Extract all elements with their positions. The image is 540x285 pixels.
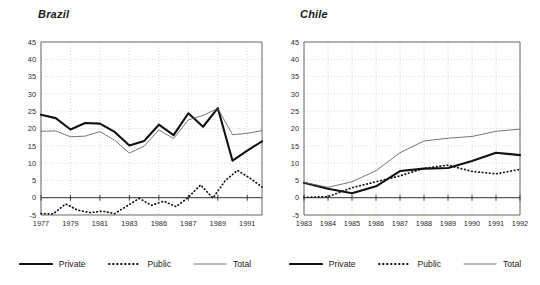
legend-label: Public (148, 259, 171, 269)
chart-panel-brazil: Brazil 454035302520151050-51977197919811… (0, 0, 270, 285)
x-axis-tick-label: 1983 (296, 219, 312, 228)
y-axis-tick-label: 25 (291, 107, 299, 116)
x-axis-tick-label: 1985 (344, 219, 360, 228)
y-axis-tick-label: 20 (28, 124, 36, 133)
legend-swatch-public-icon (108, 259, 142, 269)
x-axis-tick-label: 1992 (512, 219, 528, 228)
legend-swatch-private-icon (289, 259, 323, 269)
x-axis-tick-label: 1977 (33, 219, 49, 228)
legend-label: Public (418, 259, 441, 269)
x-axis-tick-label: 1986 (368, 219, 384, 228)
legend-brazil: PrivatePublicTotal (0, 252, 270, 276)
legend-item-public[interactable]: Public (108, 259, 171, 269)
y-axis-tick-label: 10 (28, 159, 36, 168)
x-axis-tick-label: 1987 (392, 219, 408, 228)
series-line-private (41, 108, 262, 161)
y-axis-tick-label: 0 (32, 193, 36, 202)
y-axis-tick-label: 30 (28, 90, 36, 99)
y-axis-tick-label: 15 (28, 142, 36, 151)
x-axis-tick-label: 1989 (210, 219, 226, 228)
y-axis-tick-label: 40 (28, 55, 36, 64)
y-axis-tick-label: 30 (291, 90, 299, 99)
legend-label: Private (329, 259, 356, 269)
x-axis-tick-label: 1991 (488, 219, 504, 228)
chart-panel-chile: Chile 454035302520151050-519831984198519… (270, 0, 540, 285)
legend-swatch-private-icon (19, 259, 53, 269)
legend-swatch-total-icon (193, 259, 227, 269)
y-axis-tick-label: 25 (28, 107, 36, 116)
figure-root: Brazil 454035302520151050-51977197919811… (0, 0, 540, 285)
x-axis-tick-label: 1984 (320, 219, 336, 228)
chart-svg-brazil: 454035302520151050-519771979198119831986… (0, 36, 270, 246)
x-axis-tick-label: 1981 (92, 219, 108, 228)
y-axis-tick-label: 5 (295, 176, 299, 185)
y-axis-tick-label: 20 (291, 124, 299, 133)
y-axis-tick-label: 5 (32, 176, 36, 185)
x-axis-tick-label: 1979 (62, 219, 78, 228)
y-axis-tick-label: 40 (291, 55, 299, 64)
legend-item-private[interactable]: Private (19, 259, 86, 269)
y-axis-tick-label: 45 (28, 38, 36, 47)
legend-label: Total (503, 259, 521, 269)
x-axis-tick-label: 1988 (416, 219, 432, 228)
x-axis-tick-label: 1989 (440, 219, 456, 228)
x-axis-tick-label: 1986 (151, 219, 167, 228)
y-axis-tick-label: 45 (291, 38, 299, 47)
x-axis-tick-label: 1991 (239, 219, 255, 228)
legend-label: Private (59, 259, 86, 269)
series-line-private (304, 153, 520, 193)
legend-swatch-total-icon (463, 259, 497, 269)
legend-item-private[interactable]: Private (289, 259, 356, 269)
chart-svg-chile: 454035302520151050-519831984198519861987… (270, 36, 540, 246)
series-line-total (304, 129, 520, 187)
plot-area-chile: 454035302520151050-519831984198519861987… (270, 36, 540, 246)
x-axis-tick-label: 1983 (121, 219, 137, 228)
legend-item-total[interactable]: Total (463, 259, 521, 269)
legend-swatch-public-icon (378, 259, 412, 269)
legend-label: Total (233, 259, 251, 269)
x-axis-tick-label: 1987 (180, 219, 196, 228)
legend-chile: PrivatePublicTotal (270, 252, 540, 276)
y-axis-tick-label: 10 (291, 159, 299, 168)
legend-item-total[interactable]: Total (193, 259, 251, 269)
page-title-brazil: Brazil (38, 8, 69, 20)
y-axis-tick-label: 15 (291, 142, 299, 151)
plot-area-brazil: 454035302520151050-519771979198119831986… (0, 36, 270, 246)
y-axis-tick-label: 35 (28, 72, 36, 81)
y-axis-tick-label: 35 (291, 72, 299, 81)
x-axis-tick-label: 1990 (464, 219, 480, 228)
page-title-chile: Chile (300, 8, 328, 20)
y-axis-tick-label: 0 (295, 193, 299, 202)
series-line-public (41, 170, 262, 214)
legend-item-public[interactable]: Public (378, 259, 441, 269)
